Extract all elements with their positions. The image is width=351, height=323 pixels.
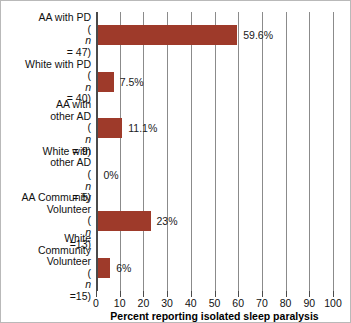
- x-axis-tick-label: 20: [138, 297, 150, 309]
- bar-row: 11.1%: [96, 105, 333, 152]
- bar-row: 6%: [96, 245, 333, 292]
- bar-row: 23%: [96, 198, 333, 245]
- bar-value-label: 7.5%: [120, 77, 144, 88]
- bar: [96, 72, 114, 92]
- bar-chart-figure: AA with PD (n = 47) White with PD (n = 4…: [0, 0, 351, 323]
- bar-row: 59.6%: [96, 12, 333, 59]
- plot-area: 59.6% 7.5% 11.1% 0% 23% 6%: [96, 12, 333, 291]
- x-axis-tick-label: 80: [280, 297, 292, 309]
- bar: [96, 25, 237, 45]
- bar-value-label: 23%: [157, 216, 178, 227]
- category-label-line: AA with PD: [38, 12, 91, 24]
- category-axis-labels: AA with PD (n = 47) White with PD (n = 4…: [1, 12, 91, 291]
- x-axis-title: Percent reporting isolated sleep paralys…: [96, 310, 333, 322]
- y-axis-line: [96, 12, 98, 291]
- x-axis-tick-label: 30: [161, 297, 173, 309]
- category-label-line: Volunteer: [47, 256, 91, 268]
- x-axis-tick-labels: 0102030405060708090100: [96, 297, 333, 311]
- n-italic: n: [85, 278, 91, 290]
- n-italic: n: [85, 133, 91, 145]
- bar: [96, 118, 122, 138]
- category-sample-size: (n =15): [70, 268, 91, 303]
- category-label: AA with PD (n = 47): [1, 12, 91, 59]
- category-label-line: White with PD: [25, 59, 91, 71]
- n-italic: n: [85, 34, 91, 46]
- bar-value-label: 11.1%: [128, 123, 157, 134]
- bar-value-label: 6%: [116, 263, 131, 274]
- category-label-line: other AD: [50, 111, 91, 123]
- x-axis-tick-label: 100: [324, 297, 342, 309]
- bar-value-label: 59.6%: [243, 30, 273, 41]
- x-axis-tick-label: 10: [114, 297, 126, 309]
- bar: [96, 211, 151, 231]
- x-axis-tick-label: 40: [185, 297, 197, 309]
- bar: [96, 258, 110, 278]
- bar-value-label: 0%: [104, 170, 119, 181]
- category-label-line: other AD: [50, 157, 91, 169]
- x-axis-tick-label: 70: [256, 297, 268, 309]
- category-label: White Community Volunteer (n =15): [1, 245, 91, 292]
- n-italic: n: [85, 81, 91, 93]
- bar-row: 7.5%: [96, 59, 333, 106]
- x-axis-tick-label: 90: [303, 297, 315, 309]
- bar-rows: 59.6% 7.5% 11.1% 0% 23% 6%: [96, 12, 333, 291]
- category-label-line: Volunteer: [47, 204, 91, 216]
- n-italic: n: [85, 180, 91, 192]
- gridline: [333, 12, 334, 291]
- category-label-line: White: [64, 233, 91, 245]
- x-axis-tick-label: 50: [209, 297, 221, 309]
- bar-row: 0%: [96, 152, 333, 199]
- x-axis-tick-label: 60: [232, 297, 244, 309]
- x-axis-tick-label: 0: [93, 297, 99, 309]
- category-sample-size: (n = 47): [67, 24, 91, 59]
